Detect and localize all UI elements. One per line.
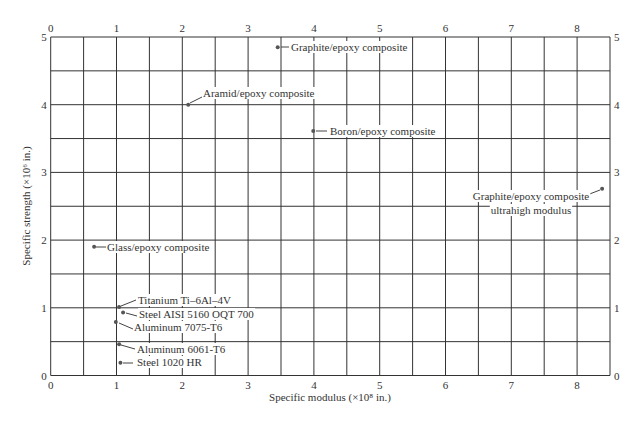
x-tick-bottom: 3 xyxy=(245,379,251,391)
x-tick-bottom: 7 xyxy=(509,379,515,391)
leader-line xyxy=(126,313,137,316)
point-label: Steel AISI 5160 OQT 700 xyxy=(139,308,254,320)
x-tick-bottom: 0 xyxy=(48,379,54,391)
y-tick-right: 4 xyxy=(614,99,620,111)
point-label: Aluminum 7075-T6 xyxy=(134,321,223,333)
x-tick-bottom: 6 xyxy=(443,379,449,391)
x-tick-top: 5 xyxy=(377,22,383,34)
point-label: Steel 1020 HR xyxy=(137,356,202,368)
leader-line xyxy=(121,345,135,349)
x-axis-label: Specific modulus (×10⁸ in.) xyxy=(269,391,391,404)
data-point xyxy=(311,129,315,133)
point-label: ultrahigh modulus xyxy=(491,204,571,216)
y-tick-right: 0 xyxy=(614,370,620,382)
x-tick-bottom: 4 xyxy=(311,379,317,391)
point-label: Glass/epoxy composite xyxy=(107,241,209,253)
data-point xyxy=(186,103,190,107)
point-label: Graphite/epoxy composite xyxy=(291,41,408,53)
y-axis-label: Specific strength (×10⁶ in.) xyxy=(20,146,33,266)
leader-line xyxy=(190,97,202,103)
y-tick-left: 1 xyxy=(41,302,47,314)
data-point xyxy=(114,320,118,324)
x-tick-top: 3 xyxy=(245,22,251,34)
leader-line xyxy=(121,300,136,306)
x-tick-bottom: 5 xyxy=(377,379,383,391)
annotations: Graphite/epoxy compositeAramid/epoxy com… xyxy=(96,41,600,368)
x-tick-top: 0 xyxy=(48,22,54,34)
point-label: Titanium Ti–6Al–4V xyxy=(138,294,231,306)
y-tick-left: 2 xyxy=(41,234,47,246)
x-tick-top: 2 xyxy=(180,22,186,34)
data-point xyxy=(276,45,280,49)
y-tick-left: 0 xyxy=(41,370,47,382)
x-tick-top: 8 xyxy=(574,22,580,34)
data-point xyxy=(117,305,121,309)
point-label: Graphite/epoxy composite xyxy=(473,190,590,202)
x-tick-bottom: 8 xyxy=(574,379,580,391)
data-point xyxy=(117,342,121,346)
data-point xyxy=(118,361,122,365)
data-point xyxy=(92,245,96,249)
data-point xyxy=(121,311,125,315)
x-tick-top: 6 xyxy=(443,22,449,34)
y-tick-right: 5 xyxy=(614,31,620,43)
y-tick-right: 1 xyxy=(614,302,620,314)
point-label: Boron/epoxy composite xyxy=(330,125,436,137)
leader-line xyxy=(119,323,133,329)
y-tick-right: 3 xyxy=(614,166,620,178)
x-tick-bottom: 2 xyxy=(180,379,186,391)
x-tick-top: 4 xyxy=(311,22,317,34)
x-tick-bottom: 1 xyxy=(114,379,120,391)
point-label: Aluminum 6061-T6 xyxy=(137,343,226,355)
specific-strength-vs-modulus-chart: 001122334455667788001122334455 Graphite/… xyxy=(0,0,640,424)
y-tick-left: 5 xyxy=(41,31,47,43)
y-tick-left: 3 xyxy=(41,166,47,178)
point-label: Aramid/epoxy composite xyxy=(203,87,315,99)
x-tick-top: 1 xyxy=(114,22,120,34)
y-tick-left: 4 xyxy=(41,99,47,111)
data-point xyxy=(600,187,604,191)
x-tick-top: 7 xyxy=(509,22,515,34)
y-tick-right: 2 xyxy=(614,234,620,246)
